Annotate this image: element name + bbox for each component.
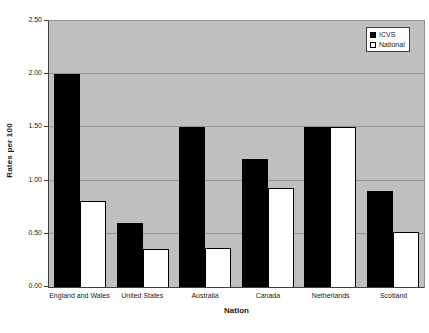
bar-national-australia: [205, 248, 231, 287]
bar-icvs-australia: [179, 127, 205, 287]
bar-national-netherlands: [330, 127, 356, 287]
y-axis-title: Rates per 100: [5, 96, 14, 206]
x-tick-label-scotland: Scotland: [362, 291, 425, 300]
y-tick-label-1.00: 1.00: [8, 176, 42, 184]
bar-icvs-scotland: [367, 191, 393, 287]
x-axis-title: Nation: [48, 306, 425, 315]
x-tick-label-united-states: United States: [111, 291, 174, 300]
bar-group-scotland: [362, 21, 425, 287]
bar-group-united-states: [112, 21, 175, 287]
legend: ICVS National: [366, 27, 410, 52]
legend-label-national: National: [379, 41, 405, 48]
x-tick-label-netherlands: Netherlands: [299, 291, 362, 300]
bar-group-australia: [174, 21, 237, 287]
icvs-swatch-icon: [370, 32, 376, 38]
bar-group-netherlands: [299, 21, 362, 287]
y-tick-label-2.50: 2.50: [8, 16, 42, 24]
bar-group-canada: [237, 21, 300, 287]
bar-icvs-england-and-wales: [54, 74, 80, 287]
y-tick-label-2.00: 2.00: [8, 69, 42, 77]
bar-icvs-netherlands: [304, 127, 330, 287]
bar-national-scotland: [393, 232, 419, 287]
bar-group-england-and-wales: [49, 21, 112, 287]
x-axis-tick-labels: England and WalesUnited StatesAustraliaC…: [48, 291, 425, 300]
y-tick-label-0.50: 0.50: [8, 229, 42, 237]
bar-national-canada: [268, 188, 294, 287]
bar-icvs-united-states: [117, 223, 143, 287]
national-swatch-icon: [370, 42, 376, 48]
legend-entry-national: National: [370, 41, 405, 48]
plot-area: [48, 20, 425, 288]
legend-label-icvs: ICVS: [379, 31, 395, 38]
bar-national-united-states: [143, 249, 169, 287]
bar-groups: [49, 21, 424, 287]
y-tick-label-1.50: 1.50: [8, 122, 42, 130]
x-tick-label-england-and-wales: England and Wales: [48, 291, 111, 300]
chart: Rates per 100 0.000.501.001.502.002.50 E…: [0, 0, 429, 333]
y-tick-label-0.00: 0.00: [8, 282, 42, 290]
bar-national-england-and-wales: [80, 201, 106, 287]
legend-entry-icvs: ICVS: [370, 31, 405, 38]
bar-icvs-canada: [242, 159, 268, 287]
x-tick-label-australia: Australia: [174, 291, 237, 300]
x-tick-label-canada: Canada: [236, 291, 299, 300]
